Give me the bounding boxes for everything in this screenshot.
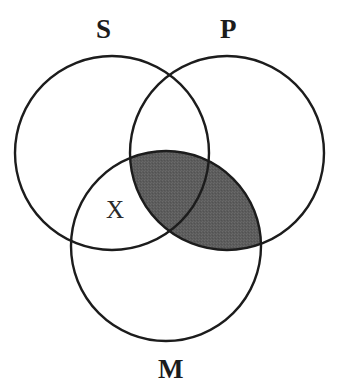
x-marker-label: X	[106, 197, 124, 222]
shaded-region-p-and-m	[0, 0, 338, 389]
venn-diagram-figure: S P M X	[0, 0, 338, 389]
circle-label-p: P	[220, 16, 237, 43]
circle-label-s: S	[96, 16, 111, 43]
venn-diagram-svg	[0, 0, 338, 389]
circle-label-m: M	[158, 356, 183, 383]
